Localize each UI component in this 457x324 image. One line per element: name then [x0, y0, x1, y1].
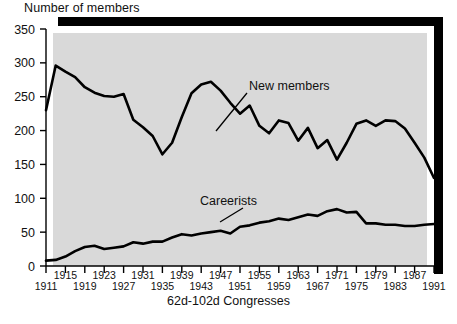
chart-figure: Number of members 62d-102d Congresses 05… — [0, 0, 457, 324]
x-tick-label: 1975 — [345, 280, 369, 292]
y-axis-ticks — [40, 29, 46, 266]
x-tick-label: 1959 — [267, 280, 291, 292]
series-label-careerists: Careerists — [200, 194, 257, 208]
x-tick-label: 1919 — [73, 280, 97, 292]
x-tick-label: 1983 — [384, 280, 408, 292]
y-tick-label: 200 — [14, 124, 35, 138]
plot-background — [53, 33, 427, 266]
x-tick-label: 1951 — [228, 280, 252, 292]
frame-shadow-right — [434, 17, 443, 274]
x-tick-label: 1927 — [112, 280, 136, 292]
y-tick-label: 150 — [14, 158, 35, 172]
x-tick-label: 1911 — [35, 280, 58, 292]
frame-shadow-top — [58, 17, 443, 26]
y-tick-label: 300 — [14, 56, 35, 70]
x-tick-label: 1967 — [306, 280, 330, 292]
y-axis-tick-labels: 050100150200250300350 — [14, 23, 35, 274]
y-tick-label: 100 — [14, 192, 35, 206]
series-label-new-members: New members — [249, 79, 330, 93]
y-tick-label: 50 — [21, 226, 35, 240]
x-tick-label: 1991 — [422, 280, 446, 292]
x-tick-label: 1935 — [151, 280, 175, 292]
y-tick-label: 0 — [28, 260, 35, 274]
line-chart-plot: 050100150200250300350 191119151919192319… — [0, 0, 457, 324]
y-tick-label: 250 — [14, 90, 35, 104]
y-tick-label: 350 — [14, 23, 35, 37]
x-tick-label: 1943 — [190, 280, 214, 292]
